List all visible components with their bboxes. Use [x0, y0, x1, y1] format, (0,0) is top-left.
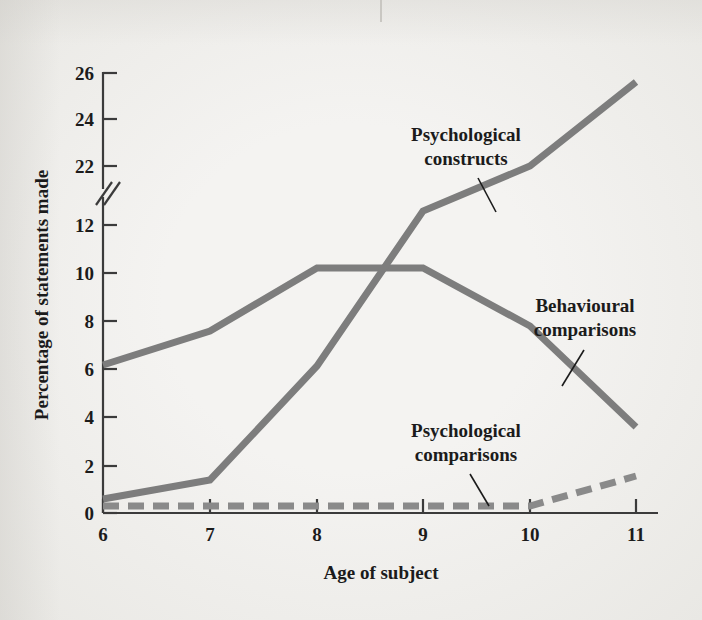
annotation-psychcomp-leader [470, 474, 489, 506]
y-tick-label-4: 4 [85, 407, 95, 428]
y-tick-label-0: 0 [85, 503, 95, 524]
axes-group [96, 72, 658, 513]
annotation-psychological-constructs: Psychological constructs [411, 124, 521, 212]
annotation-constructs-line2: constructs [424, 148, 507, 169]
y-tick-label-10: 10 [75, 263, 94, 284]
y-axis-title: Percentage of statements made [31, 170, 52, 420]
x-tick-label-6: 6 [98, 524, 108, 545]
y-tick-label-12: 12 [75, 215, 94, 236]
x-tick-labels-group: 6 7 8 9 10 11 [98, 524, 645, 545]
y-tick-label-2: 2 [85, 456, 95, 477]
x-tick-label-7: 7 [205, 524, 215, 545]
y-tick-label-26: 26 [75, 63, 94, 84]
series-psychological-comparisons [103, 476, 636, 506]
x-axis-title: Age of subject [323, 562, 439, 583]
line-chart: 0 2 4 6 8 10 12 22 24 26 6 7 8 9 10 11 [0, 0, 702, 620]
annotation-behavioural-line1: Behavioural [535, 295, 634, 316]
y-ticks-group [103, 73, 117, 513]
annotation-psychological-comparisons: Psychological comparisons [411, 420, 521, 506]
series-psychological-constructs [103, 82, 636, 499]
annotation-constructs-line1: Psychological [411, 124, 521, 145]
y-tick-labels-group: 0 2 4 6 8 10 12 22 24 26 [75, 63, 95, 524]
x-tick-label-9: 9 [418, 524, 428, 545]
y-tick-label-24: 24 [75, 109, 95, 130]
x-tick-label-11: 11 [627, 524, 645, 545]
annotation-behavioural-line2: comparisons [534, 319, 636, 340]
x-tick-label-8: 8 [312, 524, 322, 545]
y-axis-break-icon [96, 182, 120, 205]
annotation-psychcomp-line1: Psychological [411, 420, 521, 441]
y-tick-label-22: 22 [75, 156, 94, 177]
y-tick-label-8: 8 [85, 311, 95, 332]
figure-container: 0 2 4 6 8 10 12 22 24 26 6 7 8 9 10 11 [0, 0, 702, 620]
y-tick-label-6: 6 [85, 359, 95, 380]
annotation-psychcomp-line2: comparisons [415, 444, 517, 465]
x-tick-label-10: 10 [521, 524, 540, 545]
